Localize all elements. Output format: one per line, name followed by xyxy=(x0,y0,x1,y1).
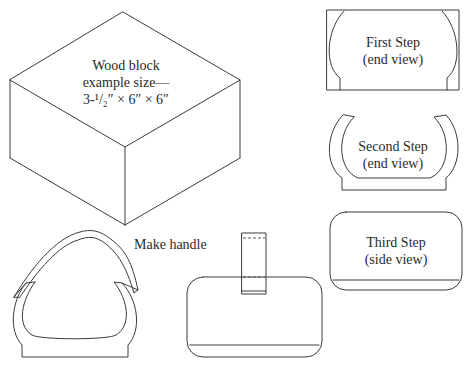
handle-assembly xyxy=(187,233,322,357)
wood-block-line1: Wood block xyxy=(78,57,174,74)
make-handle-label: Make handle xyxy=(134,236,207,253)
second-step-view: (end view) xyxy=(348,155,438,172)
finished-end-view xyxy=(13,231,138,357)
wood-block-cube xyxy=(10,12,240,225)
third-step-view: (side view) xyxy=(350,251,442,268)
wood-block-line2: example size— xyxy=(78,74,174,91)
second-step-title: Second Step xyxy=(348,138,438,155)
wood-block-label: Wood block example size— 3-¹/₂″ × 6″ × 6… xyxy=(78,57,174,108)
first-step-title: First Step xyxy=(348,34,438,51)
third-step-label: Third Step (side view) xyxy=(350,234,442,268)
wood-block-line3: 3-¹/₂″ × 6″ × 6″ xyxy=(78,91,174,108)
third-step-title: Third Step xyxy=(350,234,442,251)
first-step-label: First Step (end view) xyxy=(348,34,438,68)
first-step-view: (end view) xyxy=(348,51,438,68)
second-step-label: Second Step (end view) xyxy=(348,138,438,172)
